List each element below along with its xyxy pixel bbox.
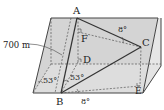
label-A: A [72, 5, 81, 16]
label-C: C [142, 37, 150, 48]
geometry-diagram: A B C D E F 700 m 53° 53° 8° 8° [0, 0, 164, 110]
label-D: D [83, 54, 91, 65]
height-label: 700 m [3, 40, 30, 50]
label-B: B [56, 96, 63, 107]
angle-ABD-label: 53° [70, 73, 84, 82]
diagram-canvas: A B C D E F 700 m 53° 53° 8° 8° [0, 0, 164, 110]
label-E: E [135, 86, 142, 96]
angle-top-label: 8° [118, 25, 127, 34]
label-F: F [81, 33, 88, 44]
angle-bottom-label: 8° [81, 97, 90, 106]
angle-left-label: 53° [43, 76, 57, 85]
